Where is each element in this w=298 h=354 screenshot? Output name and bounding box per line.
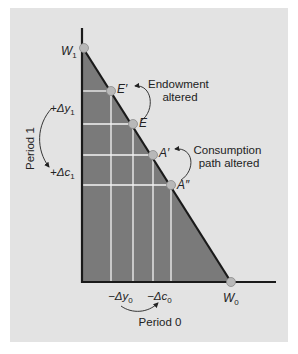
- point-w1: [80, 44, 89, 53]
- point-e-prime: [107, 87, 116, 96]
- label-e-prime: E′: [117, 82, 128, 96]
- delta-c1-label: +Δc1: [50, 166, 75, 181]
- delta-c0-label: −Δc0: [147, 290, 172, 305]
- consumption-arrow: [175, 149, 191, 180]
- x-axis-label: Period 0: [139, 316, 182, 328]
- point-e: [129, 120, 138, 129]
- period1-arrow: [40, 108, 52, 167]
- delta-y1-label: +Δy1: [50, 102, 75, 117]
- endowment-altered-label: Endowment altered: [148, 78, 212, 103]
- period0-arrow: [121, 303, 158, 311]
- point-w0: [227, 278, 236, 287]
- consumption-path-altered-label: Consumption path altered: [194, 144, 265, 169]
- point-a-prime: [149, 151, 158, 160]
- budget-constraint-diagram: W1 E′ E A′ A″ W0 Endowment altered Consu…: [0, 0, 298, 354]
- label-w0: W0: [223, 291, 239, 307]
- label-a-prime: A′: [158, 146, 170, 160]
- point-a-dprime: [167, 181, 176, 190]
- y-axis-label: Period 1: [24, 127, 36, 170]
- delta-y0-label: −Δy0: [108, 290, 133, 305]
- label-e: E: [139, 116, 148, 130]
- label-a-dprime: A″: [176, 178, 190, 192]
- label-w1: W1: [61, 44, 77, 60]
